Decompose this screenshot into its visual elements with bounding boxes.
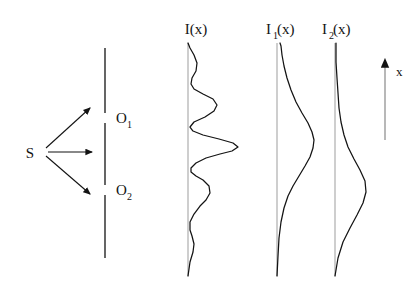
ray-upper-arrow xyxy=(46,108,90,148)
intensity-curve-slit1 xyxy=(277,43,314,276)
ray-lower-arrow xyxy=(46,156,90,194)
interference-diagram: S O 1 O 2 I(x) I 1 (x) I 2 (x) x xyxy=(0,0,419,286)
diagram-canvas: S O 1 O 2 I(x) I 1 (x) I 2 (x) x xyxy=(0,0,419,286)
plot-label-i2-suffix: (x) xyxy=(333,21,351,38)
intensity-curve-combined xyxy=(188,43,238,276)
slit-label-o2-subscript: 2 xyxy=(127,191,132,202)
slit-label-o1: O xyxy=(116,110,127,126)
plot-label-i1-suffix: (x) xyxy=(277,21,295,38)
source-label: S xyxy=(26,145,34,161)
x-axis-label: x xyxy=(396,64,403,79)
slit-label-o1-subscript: 1 xyxy=(127,119,132,130)
plot-label-i: I(x) xyxy=(185,21,208,38)
plot-label-i1: I xyxy=(266,21,271,37)
slit-label-o2: O xyxy=(116,182,127,198)
intensity-curve-slit2 xyxy=(335,43,366,276)
plot-label-i2: I xyxy=(322,21,327,37)
